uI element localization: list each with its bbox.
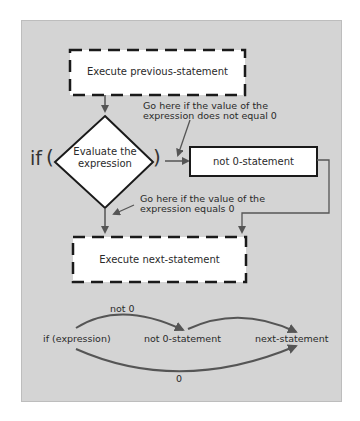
annotation-not-zero-line2: expression does not equal 0 — [143, 110, 277, 121]
decision-label-line1: Evaluate the — [65, 146, 145, 158]
summary-node-not0: not 0-statement — [144, 333, 221, 344]
summary-edge-zero-label: 0 — [176, 373, 182, 384]
summary-edge-not0-to-next — [188, 318, 296, 332]
not0-statement-label: not 0-statement — [190, 147, 317, 176]
previous-statement-label: Execute previous-statement — [70, 50, 245, 94]
annotation-pointer-zero — [114, 205, 134, 214]
open-paren: ( — [46, 146, 54, 168]
summary-node-next: next-statement — [255, 333, 328, 344]
decision-label-line2: expression — [65, 158, 145, 170]
summary-node-if: if (expression) — [43, 333, 111, 344]
annotation-zero-line2: expression equals 0 — [140, 203, 235, 214]
if-keyword: if — [30, 147, 42, 169]
summary-edge-not0-label: not 0 — [110, 303, 135, 314]
summary-edge-not0 — [76, 314, 183, 330]
summary-edge-zero — [76, 346, 296, 371]
next-statement-label: Execute next-statement — [73, 237, 246, 282]
close-paren: ) — [153, 146, 161, 168]
annotation-pointer-not-zero — [178, 120, 190, 155]
